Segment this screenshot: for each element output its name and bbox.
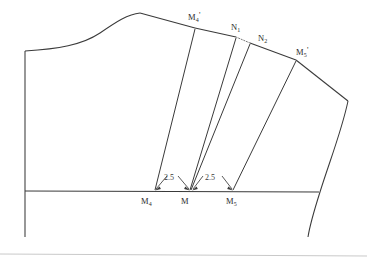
dimension-value-left: 2.5 xyxy=(164,174,174,182)
upper-edge-segment-d xyxy=(296,60,348,101)
baseline-hem-line xyxy=(25,191,319,192)
armhole-curve xyxy=(25,13,140,51)
pattern-drawing xyxy=(0,0,367,263)
label-m4-prime: M4' xyxy=(188,13,201,22)
right-side-seam-curve xyxy=(308,101,348,237)
slash-line-n2 xyxy=(191,44,250,190)
n1-n2-dotted-connector xyxy=(236,37,250,43)
diagram-canvas: M4' N1 N2 M5' M4 M M5 2.5 2.5 xyxy=(0,0,367,263)
label-n1: N1 xyxy=(231,23,241,32)
page-edge-artifact xyxy=(0,254,367,256)
slash-line-m4 xyxy=(155,29,195,190)
slash-line-n1 xyxy=(190,38,236,190)
dimension-value-right: 2.5 xyxy=(205,174,215,182)
label-m4: M4 xyxy=(141,197,152,206)
upper-edge-segment-b xyxy=(195,28,236,37)
label-m5-prime: M5' xyxy=(296,48,309,57)
upper-edge-segment-c xyxy=(250,43,296,60)
upper-edge-segment-a xyxy=(140,13,195,28)
label-m: M xyxy=(181,197,189,206)
label-n2: N2 xyxy=(258,34,268,43)
label-m5: M5 xyxy=(226,197,237,206)
slash-line-m5 xyxy=(233,61,296,190)
